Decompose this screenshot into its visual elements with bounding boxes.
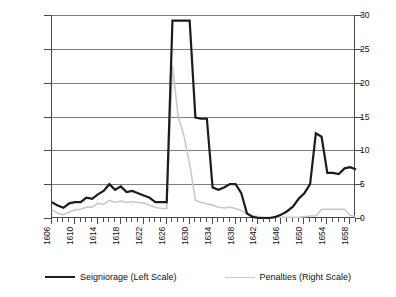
right-axis-tick-label: 25 <box>360 44 396 54</box>
x-axis-tick-label: 1654 <box>317 227 327 245</box>
left-axis-tick-mark <box>44 218 51 219</box>
x-axis-tick-label: 1646 <box>271 227 281 245</box>
x-axis-tick-mark <box>263 218 264 222</box>
right-axis-tick-label: 5 <box>360 179 396 189</box>
x-axis-tick-mark <box>206 218 207 222</box>
x-axis-tick-mark <box>303 218 304 224</box>
x-axis-tick-mark <box>74 218 75 224</box>
legend-item-seigniorage: Seigniorage (Left Scale) <box>45 272 177 282</box>
x-axis-tick-mark <box>51 218 52 224</box>
x-axis-tick-mark <box>344 218 345 222</box>
line-seigniorage <box>52 21 356 218</box>
x-axis-tick-label: 1634 <box>203 227 213 245</box>
x-axis-tick-mark <box>275 218 276 222</box>
x-axis-tick-mark <box>68 218 69 222</box>
x-axis-tick-mark <box>280 218 281 224</box>
x-axis-tick-mark <box>85 218 86 222</box>
right-axis-tick-label: 0 <box>360 213 396 223</box>
x-axis-tick-mark <box>223 218 224 222</box>
x-axis-tick-mark <box>321 218 322 222</box>
chart-legend: Seigniorage (Left Scale) Penalties (Righ… <box>0 272 396 282</box>
x-axis-tick-mark <box>332 218 333 222</box>
right-axis-tick-label: 10 <box>360 145 396 155</box>
x-axis-tick-mark <box>252 218 253 222</box>
legend-line-icon-penalties <box>225 277 255 278</box>
x-axis-tick-mark <box>114 218 115 222</box>
x-axis-tick-label: 1642 <box>248 227 258 245</box>
x-axis-tick-mark <box>126 218 127 222</box>
x-axis-tick-label: 1638 <box>226 227 236 245</box>
x-axis-tick-mark <box>292 218 293 222</box>
right-axis-tick-label: 30 <box>360 10 396 20</box>
x-axis-tick-label: 1650 <box>294 227 304 245</box>
right-axis-tick-mark <box>355 83 362 84</box>
right-axis-tick-mark <box>355 218 362 219</box>
x-axis-tick-mark <box>108 218 109 222</box>
x-axis-tick-mark <box>240 218 241 222</box>
left-axis-tick-mark <box>44 117 51 118</box>
x-axis-tick-label: 1626 <box>157 227 167 245</box>
right-axis-tick-mark <box>355 184 362 185</box>
x-axis-tick-mark <box>355 218 356 222</box>
x-axis-tick-mark <box>183 218 184 222</box>
x-axis-tick-label: 1610 <box>65 227 75 245</box>
x-axis-tick-label: 1618 <box>111 227 121 245</box>
x-axis-tick-mark <box>257 218 258 224</box>
x-axis-tick-mark <box>171 218 172 222</box>
category-axis: 1606161016141618162216261630163416381642… <box>51 218 355 278</box>
left-axis-tick-mark <box>44 15 51 16</box>
x-axis-tick-mark <box>235 218 236 224</box>
x-axis-tick-mark <box>177 218 178 222</box>
x-axis-tick-mark <box>137 218 138 222</box>
x-axis-tick-mark <box>62 218 63 222</box>
x-axis-tick-mark <box>103 218 104 222</box>
left-axis-tick-mark <box>44 150 51 151</box>
x-axis-tick-mark <box>315 218 316 222</box>
x-axis-tick-mark <box>298 218 299 222</box>
x-axis-tick-mark <box>309 218 310 222</box>
x-axis-tick-mark <box>97 218 98 224</box>
left-axis-tick-mark <box>44 184 51 185</box>
x-axis-tick-mark <box>80 218 81 222</box>
legend-label-penalties: Penalties (Right Scale) <box>260 272 352 282</box>
x-axis-tick-mark <box>160 218 161 222</box>
x-axis-tick-mark <box>326 218 327 224</box>
plot-area <box>51 15 355 218</box>
x-axis-tick-mark <box>229 218 230 222</box>
left-axis-tick-mark <box>44 49 51 50</box>
x-axis-tick-mark <box>91 218 92 222</box>
x-axis-tick-mark <box>269 218 270 222</box>
x-axis-tick-label: 1614 <box>88 227 98 245</box>
right-axis-tick-mark <box>355 15 362 16</box>
x-axis-tick-mark <box>57 218 58 222</box>
series-lines <box>52 15 356 218</box>
x-axis-tick-mark <box>143 218 144 224</box>
right-axis-tick-mark <box>355 117 362 118</box>
left-axis-tick-mark <box>44 83 51 84</box>
x-axis-tick-mark <box>200 218 201 222</box>
legend-line-icon-seigniorage <box>45 276 75 278</box>
chart-figure: 0306090120150180 051015202530 1606161016… <box>0 0 396 297</box>
x-axis-tick-label: 1658 <box>340 227 350 245</box>
x-axis-tick-mark <box>246 218 247 222</box>
x-axis-tick-mark <box>189 218 190 224</box>
x-axis-tick-mark <box>194 218 195 222</box>
legend-label-seigniorage: Seigniorage (Left Scale) <box>80 272 177 282</box>
right-axis-tick-mark <box>355 49 362 50</box>
x-axis-tick-label: 1630 <box>180 227 190 245</box>
x-axis-tick-mark <box>154 218 155 222</box>
legend-item-penalties: Penalties (Right Scale) <box>225 272 352 282</box>
right-axis-tick-mark <box>355 150 362 151</box>
x-axis-tick-mark <box>131 218 132 222</box>
x-axis-tick-label: 1622 <box>134 227 144 245</box>
x-axis-tick-mark <box>120 218 121 224</box>
x-axis-tick-mark <box>212 218 213 224</box>
x-axis-tick-mark <box>217 218 218 222</box>
x-axis-tick-mark <box>338 218 339 222</box>
right-axis-tick-label: 15 <box>360 112 396 122</box>
right-axis-tick-label: 20 <box>360 78 396 88</box>
x-axis-tick-label: 1606 <box>42 227 52 245</box>
x-axis-tick-mark <box>149 218 150 222</box>
x-axis-tick-mark <box>166 218 167 224</box>
x-axis-tick-mark <box>349 218 350 224</box>
